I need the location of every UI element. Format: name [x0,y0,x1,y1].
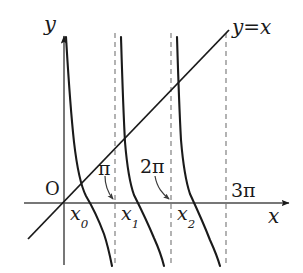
root-label-x0-base: x [70,202,81,224]
x-axis-label: x [268,206,279,226]
two-pi-annotation-arrow [155,176,169,199]
two-pi-label: 2π [140,157,165,176]
root-label-x1-base: x [121,202,132,224]
root-label-x0-subscript: 0 [81,217,89,231]
root-label-x2-subscript: 2 [188,217,196,231]
root-label-x0: x0 [70,204,88,228]
cot-branch-2 [177,37,220,266]
root-label-x1: x1 [121,204,139,228]
line-y-equals-x-label: y=x [232,17,271,37]
root-label-x2: x2 [177,204,195,228]
pi-annotation-arrow [105,176,113,199]
pi-label: π [98,159,111,178]
root-label-x2-base: x [177,202,188,224]
cot-branch-1 [121,37,164,266]
y-axis-label: y [44,14,56,35]
three-pi-label: 3π [231,181,256,200]
math-figure: y y=x O x0 x1 x2 x π 2π 3π [0,0,303,273]
cot-branch-0 [66,37,112,266]
plot-canvas [0,0,303,273]
origin-label: O [45,180,60,198]
root-label-x1-subscript: 1 [132,217,140,231]
